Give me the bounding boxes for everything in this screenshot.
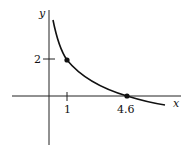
x-axis-label: x xyxy=(173,97,180,110)
y-axis-label: y xyxy=(38,7,46,20)
y-tick-label-2: 2 xyxy=(34,53,41,66)
graph: y x 2 1 4.6 xyxy=(0,0,190,153)
x-tick-label-4.6: 4.6 xyxy=(117,103,135,116)
x-tick-label-1: 1 xyxy=(64,103,71,116)
curve xyxy=(53,20,165,105)
point-1-2 xyxy=(64,57,69,62)
point-4.6-0 xyxy=(124,93,129,98)
